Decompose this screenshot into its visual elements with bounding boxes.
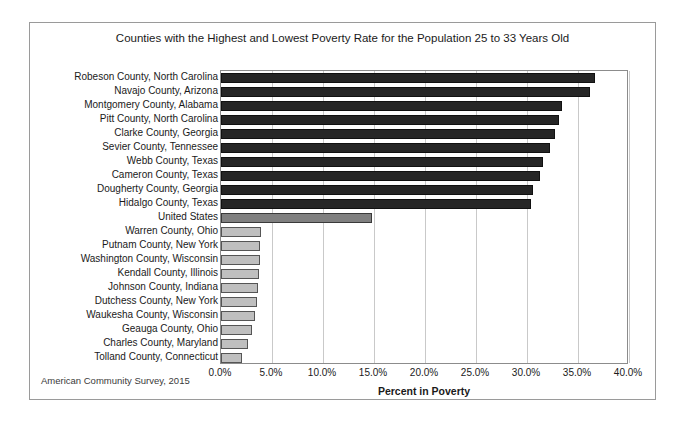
y-tick-label: Sevier County, Tennessee (42, 141, 218, 152)
bar (221, 213, 372, 223)
bar (221, 157, 543, 167)
bar-row (221, 227, 627, 237)
y-tick-label: Hidalgo County, Texas (42, 197, 218, 208)
chart-title: Counties with the Highest and Lowest Pov… (70, 31, 615, 46)
bar (221, 255, 260, 265)
source-note: American Community Survey, 2015 (41, 375, 190, 386)
bar (221, 199, 531, 209)
bar-row (221, 297, 627, 307)
x-tick-label: 25.0% (461, 367, 489, 378)
y-tick-label: Johnson County, Indiana (42, 281, 218, 292)
x-tick-label: 30.0% (512, 367, 540, 378)
bar (221, 185, 533, 195)
x-tick-label: 5.0% (260, 367, 283, 378)
y-tick-label: Dougherty County, Georgia (42, 183, 218, 194)
bar-row (221, 157, 627, 167)
x-tick-label: 35.0% (563, 367, 591, 378)
x-tick-label: 40.0% (614, 367, 642, 378)
y-tick-label: United States (42, 211, 218, 222)
y-tick-label: Navajo County, Arizona (42, 85, 218, 96)
bar (221, 297, 257, 307)
x-axis-title: Percent in Poverty (220, 385, 628, 397)
bar (221, 241, 260, 251)
bar (221, 143, 550, 153)
bar (221, 129, 555, 139)
y-tick-label: Montgomery County, Alabama (42, 99, 218, 110)
plot-area (220, 70, 628, 364)
bar-row (221, 143, 627, 153)
bar (221, 101, 562, 111)
x-axis-tick-labels: 0.0%5.0%10.0%15.0%20.0%25.0%30.0%35.0%40… (220, 367, 628, 383)
bar-row (221, 87, 627, 97)
y-tick-label: Geauga County, Ohio (42, 323, 218, 334)
y-axis-category-labels: Robeson County, North CarolinaNavajo Cou… (42, 70, 218, 364)
y-tick-label: Waukesha County, Wisconsin (42, 309, 218, 320)
bar (221, 311, 255, 321)
bar (221, 339, 248, 349)
y-tick-label: Washington County, Wisconsin (42, 253, 218, 264)
bar-row (221, 283, 627, 293)
bar-row (221, 199, 627, 209)
bar-row (221, 213, 627, 223)
bar (221, 353, 242, 363)
y-tick-label: Pitt County, North Carolina (42, 113, 218, 124)
bar (221, 227, 261, 237)
chart-frame: Counties with the Highest and Lowest Pov… (29, 22, 656, 400)
bar-row (221, 171, 627, 181)
bar (221, 87, 590, 97)
bar (221, 269, 259, 279)
y-tick-label: Webb County, Texas (42, 155, 218, 166)
y-tick-label: Warren County, Ohio (42, 225, 218, 236)
y-tick-label: Kendall County, Illinois (42, 267, 218, 278)
gridline (629, 71, 630, 363)
x-tick-label: 20.0% (410, 367, 438, 378)
bar-row (221, 353, 627, 363)
bar-row (221, 269, 627, 279)
bar-row (221, 255, 627, 265)
bar (221, 283, 258, 293)
bars-layer (221, 71, 627, 363)
bar-row (221, 241, 627, 251)
bar-row (221, 129, 627, 139)
bar-row (221, 325, 627, 335)
y-tick-label: Tolland County, Connecticut (42, 351, 218, 362)
bar (221, 325, 252, 335)
bar-row (221, 339, 627, 349)
y-tick-label: Dutchess County, New York (42, 295, 218, 306)
y-tick-label: Charles County, Maryland (42, 337, 218, 348)
bar-row (221, 115, 627, 125)
x-tick-label: 15.0% (359, 367, 387, 378)
bar (221, 171, 540, 181)
x-tick-label: 0.0% (209, 367, 232, 378)
bar-row (221, 101, 627, 111)
bar-row (221, 73, 627, 83)
y-tick-label: Robeson County, North Carolina (42, 71, 218, 82)
bar-row (221, 185, 627, 195)
bar (221, 73, 595, 83)
bar-row (221, 311, 627, 321)
y-tick-label: Cameron County, Texas (42, 169, 218, 180)
bar (221, 115, 559, 125)
y-tick-label: Clarke County, Georgia (42, 127, 218, 138)
y-tick-label: Putnam County, New York (42, 239, 218, 250)
x-tick-label: 10.0% (308, 367, 336, 378)
